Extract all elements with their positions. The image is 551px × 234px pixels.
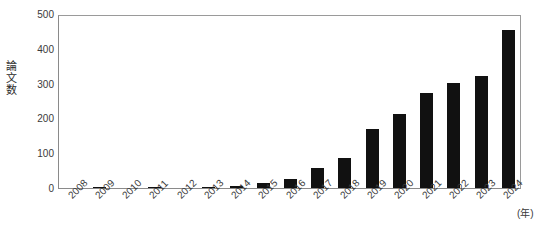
bar-series	[59, 16, 520, 188]
bar-chart-figure: 論文数 0100200300400500 2008200920102011201…	[0, 0, 551, 234]
bar	[447, 83, 460, 188]
y-axis-tick-label: 400	[20, 45, 54, 55]
bar	[420, 93, 433, 188]
y-axis-tick-label: 200	[20, 114, 54, 124]
x-axis-tick-labels: 2008200920102011201220132014201520162017…	[58, 189, 521, 234]
y-axis-tick-label: 500	[20, 10, 54, 20]
y-axis-title-char-1: 論文数	[2, 60, 20, 96]
y-axis-tick-label: 100	[20, 149, 54, 159]
bar	[475, 76, 488, 188]
y-axis-tick-labels: 0100200300400500	[20, 0, 54, 234]
plot-area	[58, 15, 521, 189]
bar	[502, 30, 515, 188]
y-axis-tick-label: 300	[20, 80, 54, 90]
x-axis-unit-label: (年)	[517, 205, 534, 220]
bar	[366, 129, 379, 188]
y-axis-title: 論文数	[2, 60, 20, 96]
y-axis-tick-label: 0	[20, 184, 54, 194]
bar	[393, 114, 406, 188]
